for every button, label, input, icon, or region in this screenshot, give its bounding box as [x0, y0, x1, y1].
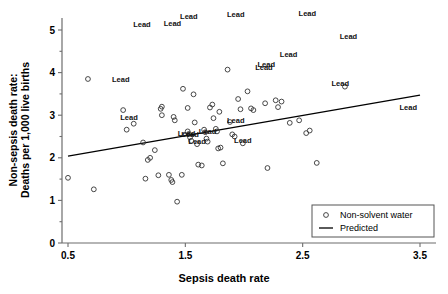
- data-point: [181, 86, 186, 91]
- data-point: [273, 98, 278, 103]
- data-point: [205, 139, 210, 144]
- predicted-fit-line: [68, 95, 420, 156]
- y-tick-label-2: 2: [49, 152, 55, 163]
- data-point: [86, 77, 91, 82]
- data-point: [238, 107, 243, 112]
- x-axis-label: Sepsis death rate: [0, 272, 448, 284]
- lead-annotation: Lead: [331, 79, 349, 88]
- lead-annotation: Lead: [280, 50, 298, 59]
- data-point: [179, 172, 184, 177]
- lead-annotation: Lead: [188, 137, 206, 146]
- data-point: [314, 161, 319, 166]
- lead-annotation: Lead: [234, 136, 252, 145]
- y-axis-label-line1: Non-sepsis death rate:: [7, 62, 19, 198]
- data-point: [143, 176, 148, 181]
- scatter-plot-figure: Non-sepsis death rate: Deaths per 1,000 …: [0, 0, 448, 294]
- data-point: [225, 67, 230, 72]
- y-tick-label-3: 3: [49, 110, 55, 121]
- lead-annotation: Lead: [180, 12, 198, 21]
- data-point: [121, 108, 126, 113]
- data-point: [279, 99, 284, 104]
- lead-annotation: Lead: [112, 75, 130, 84]
- data-point: [192, 120, 197, 125]
- data-point: [167, 172, 172, 177]
- data-point: [276, 105, 281, 110]
- data-point: [263, 101, 268, 106]
- x-tick-label-2.5: 2.5: [296, 250, 310, 261]
- data-point: [91, 187, 96, 192]
- data-point: [159, 113, 164, 118]
- y-tick-label-0: 0: [49, 238, 55, 249]
- lead-annotation: Lead: [164, 19, 182, 28]
- data-point: [297, 118, 302, 123]
- data-point: [66, 175, 71, 180]
- x-tick-label-1.5: 1.5: [178, 250, 192, 261]
- data-point: [175, 199, 180, 204]
- y-axis-label: Non-sepsis death rate: Deaths per 1,000 …: [2, 0, 36, 260]
- x-tick-label-3.5: 3.5: [413, 250, 427, 261]
- lead-annotation: Lead: [255, 63, 273, 72]
- plot-canvas: 0123450.51.52.53.5LeadLeadLeadLeadLeadLe…: [0, 0, 448, 294]
- data-point: [156, 173, 161, 178]
- data-point: [152, 148, 157, 153]
- data-point: [217, 109, 222, 114]
- lead-annotation: Lead: [400, 103, 418, 112]
- y-axis-label-line2: Deaths per 1,000 live births: [19, 62, 31, 198]
- data-point: [191, 92, 196, 97]
- data-point: [236, 97, 241, 102]
- y-tick-label-4: 4: [49, 67, 55, 78]
- lead-annotation: Lead: [133, 20, 151, 29]
- data-point: [211, 116, 216, 121]
- lead-annotation: Lead: [199, 127, 217, 136]
- x-tick-label-0.5: 0.5: [61, 250, 75, 261]
- y-tick-label-1: 1: [49, 195, 55, 206]
- data-point: [265, 166, 270, 171]
- data-point: [220, 161, 225, 166]
- lead-annotation: Lead: [227, 116, 245, 125]
- data-point: [287, 120, 292, 125]
- lead-annotation: Lead: [340, 32, 358, 41]
- lead-annotation: Lead: [227, 10, 245, 19]
- legend-label-non-solvent-water: Non-solvent water: [340, 210, 413, 220]
- data-point: [307, 128, 312, 133]
- data-point: [185, 106, 190, 111]
- legend-label-predicted: Predicted: [340, 223, 378, 233]
- lead-annotation: Lead: [299, 9, 317, 18]
- y-tick-label-5: 5: [49, 25, 55, 36]
- data-point: [124, 127, 129, 132]
- lead-annotation: Lead: [120, 113, 138, 122]
- data-point: [245, 89, 250, 94]
